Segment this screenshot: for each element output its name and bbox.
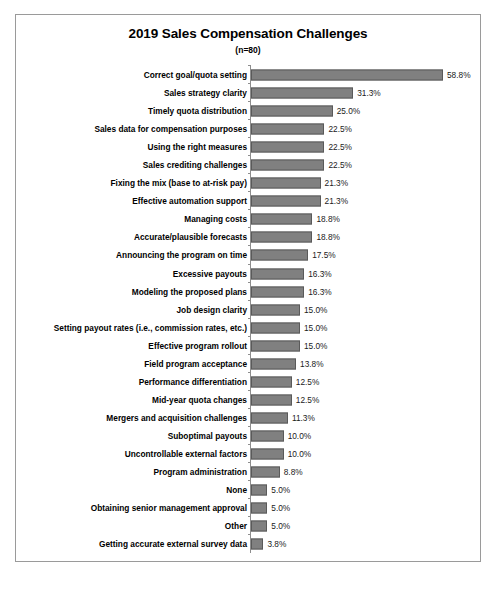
bar bbox=[251, 106, 333, 117]
bar-row-inner: Field program acceptance13.8% bbox=[251, 355, 480, 373]
bar-row-inner: Fixing the mix (base to at-risk pay)21.3… bbox=[251, 174, 480, 192]
bar-value-label: 15.0% bbox=[304, 323, 328, 333]
bar bbox=[251, 430, 284, 441]
bar-value-label: 17.5% bbox=[312, 250, 336, 260]
bar-row: Mergers and acquisition challenges11.3% bbox=[16, 409, 480, 427]
bar-row-inner: Uncontrollable external factors10.0% bbox=[251, 445, 480, 463]
axis-tick bbox=[248, 227, 251, 228]
axis-tick bbox=[248, 516, 251, 517]
bar-row-inner: Job design clarity15.0% bbox=[251, 301, 480, 319]
bar bbox=[251, 340, 300, 351]
bar-value-label: 12.5% bbox=[296, 377, 320, 387]
chart-title: 2019 Sales Compensation Challenges bbox=[16, 26, 480, 41]
bar-row-inner: Excessive payouts16.3% bbox=[251, 265, 480, 283]
category-label: Mid-year quota changes bbox=[15, 395, 247, 405]
axis-tick bbox=[248, 498, 251, 499]
category-label: Performance differentiation bbox=[15, 377, 247, 387]
category-label: Program administration bbox=[15, 467, 247, 477]
bar-row: Accurate/plausible forecasts18.8% bbox=[16, 228, 480, 246]
bar bbox=[251, 268, 304, 279]
axis-tick bbox=[248, 101, 251, 102]
bar-row: None5.0% bbox=[16, 481, 480, 499]
bar-row-inner: Suboptimal payouts10.0% bbox=[251, 427, 480, 445]
bar-row-inner: Sales data for compensation purposes22.5… bbox=[251, 120, 480, 138]
bar-value-label: 10.0% bbox=[288, 449, 312, 459]
bar bbox=[251, 376, 292, 387]
axis-tick bbox=[248, 444, 251, 445]
chart-subtitle: (n=80) bbox=[16, 45, 480, 55]
bar-row-inner: Mid-year quota changes12.5% bbox=[251, 391, 480, 409]
bar-row-inner: Managing costs18.8% bbox=[251, 210, 480, 228]
category-label: Suboptimal payouts bbox=[15, 431, 247, 441]
category-label: Mergers and acquisition challenges bbox=[15, 413, 247, 423]
category-label: Sales strategy clarity bbox=[15, 88, 247, 98]
bar bbox=[251, 304, 300, 315]
bar-row-inner: Effective program rollout15.0% bbox=[251, 337, 480, 355]
bar-value-label: 18.8% bbox=[316, 232, 340, 242]
bar bbox=[251, 467, 280, 478]
bar-row-inner: Performance differentiation12.5% bbox=[251, 373, 480, 391]
bar-value-label: 22.5% bbox=[328, 124, 352, 134]
bar-value-label: 18.8% bbox=[316, 214, 340, 224]
axis-tick bbox=[248, 534, 251, 535]
bar-row: Job design clarity15.0% bbox=[16, 301, 480, 319]
bar-row: Using the right measures22.5% bbox=[16, 138, 480, 156]
bar-row: Uncontrollable external factors10.0% bbox=[16, 445, 480, 463]
category-label: None bbox=[15, 485, 247, 495]
bar bbox=[251, 124, 324, 135]
bar bbox=[251, 232, 312, 243]
axis-tick bbox=[248, 209, 251, 210]
bar bbox=[251, 394, 292, 405]
axis-tick bbox=[248, 65, 251, 66]
bar-row-inner: Getting accurate external survey data3.8… bbox=[251, 535, 480, 553]
bar-value-label: 31.3% bbox=[357, 88, 381, 98]
category-label: Effective automation support bbox=[15, 196, 247, 206]
category-label: Correct goal/quota setting bbox=[15, 70, 247, 80]
bar-row-inner: Program administration8.8% bbox=[251, 463, 480, 481]
axis-tick bbox=[248, 119, 251, 120]
bar-row-inner: Sales crediting challenges22.5% bbox=[251, 156, 480, 174]
bar bbox=[251, 250, 308, 261]
bar bbox=[251, 70, 443, 81]
axis-tick bbox=[248, 408, 251, 409]
category-label: Timely quota distribution bbox=[15, 106, 247, 116]
bar-value-label: 25.0% bbox=[337, 106, 361, 116]
category-label: Field program acceptance bbox=[15, 359, 247, 369]
bar-value-label: 22.5% bbox=[328, 160, 352, 170]
bar-row: Announcing the program on time17.5% bbox=[16, 246, 480, 264]
bar-row-inner: None5.0% bbox=[251, 481, 480, 499]
bar-series: Correct goal/quota setting58.8%Sales str… bbox=[16, 66, 480, 553]
bar-row: Obtaining senior management approval5.0% bbox=[16, 499, 480, 517]
plot-area: Correct goal/quota setting58.8%Sales str… bbox=[16, 66, 480, 556]
bar-value-label: 5.0% bbox=[271, 503, 290, 513]
bar-row: Field program acceptance13.8% bbox=[16, 355, 480, 373]
chart-frame: 2019 Sales Compensation Challenges (n=80… bbox=[15, 14, 481, 562]
bar-value-label: 3.8% bbox=[267, 539, 286, 549]
bar-row: Timely quota distribution25.0% bbox=[16, 102, 480, 120]
category-label: Obtaining senior management approval bbox=[15, 503, 247, 513]
category-label: Other bbox=[15, 521, 247, 531]
category-label: Setting payout rates (i.e., commission r… bbox=[15, 323, 247, 333]
bar-value-label: 5.0% bbox=[271, 521, 290, 531]
bar bbox=[251, 503, 267, 514]
bar-row-inner: Announcing the program on time17.5% bbox=[251, 246, 480, 264]
bar-value-label: 11.3% bbox=[292, 413, 315, 423]
bar-row: Managing costs18.8% bbox=[16, 210, 480, 228]
axis-tick bbox=[248, 191, 251, 192]
category-label: Fixing the mix (base to at-risk pay) bbox=[15, 178, 247, 188]
bar-row: Fixing the mix (base to at-risk pay)21.3… bbox=[16, 174, 480, 192]
bar-row: Correct goal/quota setting58.8% bbox=[16, 66, 480, 84]
bar-value-label: 58.8% bbox=[447, 70, 471, 80]
bar-row: Getting accurate external survey data3.8… bbox=[16, 535, 480, 553]
bar-row: Sales data for compensation purposes22.5… bbox=[16, 120, 480, 138]
bar-value-label: 16.3% bbox=[308, 269, 332, 279]
category-label: Accurate/plausible forecasts bbox=[15, 232, 247, 242]
bar-value-label: 21.3% bbox=[325, 178, 349, 188]
bar-row: Sales crediting challenges22.5% bbox=[16, 156, 480, 174]
axis-tick bbox=[248, 300, 251, 301]
axis-tick bbox=[248, 318, 251, 319]
bar bbox=[251, 88, 353, 99]
bar-value-label: 15.0% bbox=[304, 305, 328, 315]
category-label: Announcing the program on time bbox=[15, 250, 247, 260]
bar bbox=[251, 142, 324, 153]
